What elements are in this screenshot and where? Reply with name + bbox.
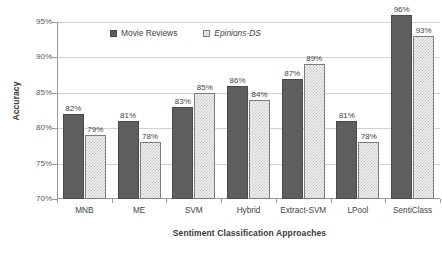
- bar-value-label: 79%: [82, 125, 109, 134]
- bar: [140, 142, 161, 199]
- bar: [336, 121, 357, 199]
- x-axis-tick-mark: [385, 199, 386, 203]
- y-axis-title: Accuracy: [11, 61, 21, 141]
- bar: [282, 79, 303, 199]
- x-axis-title: Sentiment Classification Approaches: [57, 228, 442, 238]
- x-axis-tick-label: LPool: [331, 206, 386, 216]
- gridline: [58, 57, 440, 58]
- bar-value-label: 78%: [137, 132, 164, 141]
- x-axis-tick-mark: [221, 199, 222, 203]
- bar-value-label: 81%: [115, 111, 142, 120]
- bar: [194, 93, 215, 199]
- bar-value-label: 82%: [60, 104, 87, 113]
- bar: [63, 114, 84, 199]
- bar: [391, 15, 412, 199]
- bar-chart: Accuracy 70%75%80%85%90%95% 82%79%81%78%…: [0, 0, 442, 254]
- bar-value-label: 78%: [355, 132, 382, 141]
- x-axis-tick-label: Hybrid: [221, 206, 276, 216]
- bar: [413, 36, 434, 199]
- bar: [85, 135, 106, 199]
- x-axis-tick-mark: [57, 199, 58, 203]
- bar-value-label: 86%: [224, 76, 251, 85]
- gridline: [58, 22, 440, 23]
- y-axis-tick-label: 85%: [22, 89, 52, 97]
- x-axis-tick-label: ME: [112, 206, 167, 216]
- x-axis-tick-mark: [166, 199, 167, 203]
- y-axis-tick-label: 95%: [22, 18, 52, 26]
- bar-value-label: 87%: [279, 69, 306, 78]
- bar-value-label: 89%: [301, 54, 328, 63]
- legend-label: Epinions-DS: [214, 28, 261, 38]
- legend-swatch-icon: [110, 30, 117, 37]
- x-axis-tick-mark: [112, 199, 113, 203]
- bar-value-label: 84%: [246, 90, 273, 99]
- bar: [358, 142, 379, 199]
- legend-label: Movie Reviews: [121, 28, 177, 38]
- legend-item: Epinions-DS: [203, 28, 261, 38]
- bar: [118, 121, 139, 199]
- bar: [249, 100, 270, 199]
- bar-value-label: 96%: [388, 5, 415, 14]
- x-axis-tick-mark: [440, 199, 441, 203]
- bar-value-label: 93%: [410, 26, 437, 35]
- x-axis-tick-label: MNB: [57, 206, 112, 216]
- x-axis-tick-label: Extract-SVM: [276, 206, 331, 216]
- x-axis-tick-mark: [276, 199, 277, 203]
- x-axis-tick-label: SentiClass: [385, 206, 440, 216]
- legend-swatch-icon: [203, 30, 210, 37]
- y-axis-line: [57, 22, 58, 199]
- bar-value-label: 85%: [191, 83, 218, 92]
- bar: [227, 86, 248, 199]
- plot-area: 82%79%81%78%83%85%86%84%87%89%81%78%96%9…: [57, 22, 440, 199]
- x-axis-tick-mark: [331, 199, 332, 203]
- bar: [172, 107, 193, 199]
- x-axis-tick-label: SVM: [166, 206, 221, 216]
- bar-value-label: 81%: [333, 111, 360, 120]
- legend-item: Movie Reviews: [110, 28, 177, 38]
- y-axis-tick-label: 90%: [22, 53, 52, 61]
- chart-legend: Movie ReviewsEpinions-DS: [110, 28, 261, 38]
- y-axis-tick-label: 75%: [22, 160, 52, 168]
- y-axis-tick-label: 70%: [22, 195, 52, 203]
- bar-value-label: 83%: [169, 97, 196, 106]
- bar: [304, 64, 325, 199]
- y-axis-tick-label: 80%: [22, 124, 52, 132]
